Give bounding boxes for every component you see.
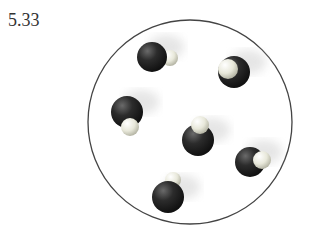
hydrogen-atom xyxy=(218,59,238,79)
hydrogen-atom xyxy=(121,118,139,136)
molecule-container-diagram xyxy=(0,0,320,235)
hydrogen-atom xyxy=(191,116,209,134)
hydrogen-atom xyxy=(253,151,271,169)
heavy-atom xyxy=(137,42,167,72)
heavy-atom xyxy=(152,181,184,213)
